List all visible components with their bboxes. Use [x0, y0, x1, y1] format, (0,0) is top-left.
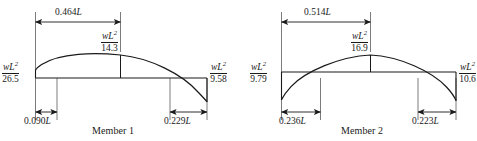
- bending-moment-figure: 0.464L wL2 14.3 wL2 26.5 wL2 9.58 0.090L…: [0, 0, 477, 141]
- diagram-canvas: [0, 0, 477, 141]
- member2-moment-curve: [282, 55, 457, 101]
- member1-graphic: [36, 12, 208, 120]
- member1-extension-lines: [36, 12, 208, 120]
- member2-extension-lines: [282, 12, 457, 120]
- member2-graphic: [282, 12, 457, 120]
